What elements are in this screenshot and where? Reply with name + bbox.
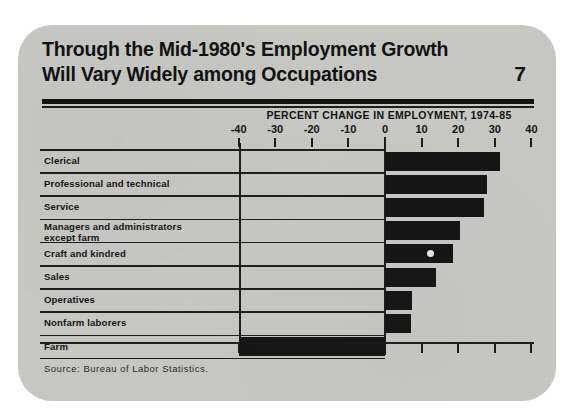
category-label: Sales (44, 272, 70, 283)
bar (385, 198, 484, 217)
row-divider (40, 219, 385, 221)
x-tick-mark-30 (494, 138, 496, 147)
x-tick-mark-bottom-40 (530, 343, 532, 353)
category-label: Farm (44, 342, 68, 353)
bar (385, 244, 453, 263)
x-tick-mark-neg40 (238, 138, 240, 147)
row-divider (40, 358, 385, 360)
x-tick-mark-neg10 (347, 138, 349, 147)
craft-marker (427, 250, 434, 257)
x-tick-label-neg30: -30 (267, 123, 283, 135)
x-tick-mark-20 (457, 138, 459, 147)
source-note: Source: Bureau of Labor Statistics. (44, 363, 208, 374)
row-divider (40, 288, 385, 290)
plot-area: -40-30-20-10010203040ClericalProfessiona… (18, 25, 556, 401)
category-label: Clerical (44, 156, 80, 167)
bar (239, 337, 385, 356)
bar (385, 175, 487, 194)
x-tick-mark-10 (421, 138, 423, 147)
row-divider (40, 265, 385, 267)
bar (385, 221, 460, 240)
bar (385, 268, 436, 287)
x-tick-label-neg40: -40 (231, 123, 247, 135)
x-tick-label-neg10: -10 (340, 123, 356, 135)
row-divider (40, 311, 385, 313)
row-divider (40, 335, 385, 337)
x-tick-label-0: 0 (382, 123, 388, 135)
bar (385, 314, 411, 333)
category-label: Managers and administrators except farm (44, 222, 182, 243)
x-tick-label-neg20: -20 (304, 123, 320, 135)
row-divider (40, 195, 385, 197)
category-label: Operatives (44, 295, 95, 306)
row-divider (40, 149, 385, 151)
x-tick-label-40: 40 (525, 123, 537, 135)
x-tick-mark-0 (384, 137, 386, 148)
x-tick-label-30: 30 (489, 123, 501, 135)
x-tick-mark-neg20 (311, 138, 313, 147)
bar (385, 291, 412, 310)
x-tick-mark-neg30 (274, 138, 276, 147)
x-tick-mark-bottom-20 (457, 343, 459, 353)
category-label: Nonfarm laborers (44, 318, 126, 329)
row-divider (40, 242, 385, 244)
bar (385, 152, 500, 171)
x-tick-mark-40 (530, 138, 532, 147)
category-label: Service (44, 202, 79, 213)
category-label: Professional and technical (44, 179, 169, 190)
row-divider (40, 172, 385, 174)
x-tick-label-10: 10 (415, 123, 427, 135)
category-label: Craft and kindred (44, 249, 126, 260)
axis-left-boundary (239, 143, 241, 355)
x-tick-label-20: 20 (452, 123, 464, 135)
x-tick-mark-bottom-10 (421, 343, 423, 353)
x-tick-mark-bottom-30 (494, 343, 496, 353)
chart-card: Through the Mid-1980's Employment Growth… (18, 25, 556, 401)
